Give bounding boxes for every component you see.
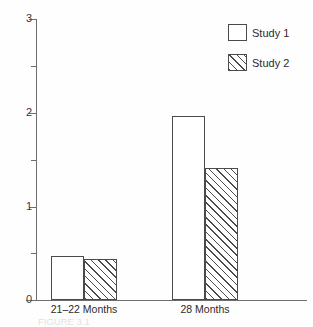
legend-item-study-2: Study 2 xyxy=(228,54,289,71)
x-axis-line xyxy=(26,300,307,301)
y-axis-label-1: 1 xyxy=(8,201,32,212)
x-axis-label-group-1: 21–22 Months xyxy=(29,303,139,315)
y-axis-label-2: 2 xyxy=(8,107,32,118)
y-tick-1-5 xyxy=(31,160,36,161)
figure-caption: FIGURE 3.1 xyxy=(38,316,298,327)
legend-item-study-1: Study 1 xyxy=(228,24,289,41)
x-axis-label-group-2: 28 Months xyxy=(150,303,260,315)
legend-label-study-1: Study 1 xyxy=(252,27,289,39)
y-tick-2-5 xyxy=(31,66,36,67)
bar-study2-21-22-months xyxy=(84,259,117,300)
chart-legend: Study 1 Study 2 xyxy=(228,24,289,84)
y-axis-line xyxy=(36,19,37,301)
bar-study1-21-22-months xyxy=(51,256,84,300)
bar-study1-28-months xyxy=(172,116,205,300)
legend-swatch-study-1-icon xyxy=(228,24,247,41)
legend-swatch-study-2-icon xyxy=(228,54,247,71)
y-axis-label-3: 3 xyxy=(8,13,32,24)
y-tick-0-5 xyxy=(31,253,36,254)
bar-study2-28-months xyxy=(205,168,238,300)
legend-label-study-2: Study 2 xyxy=(252,57,289,69)
